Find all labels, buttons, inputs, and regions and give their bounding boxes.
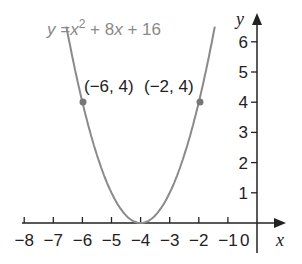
origin-label: 0 bbox=[240, 231, 249, 250]
svg-text:2: 2 bbox=[239, 154, 248, 173]
annotation-minus6-4: (−6, 4) bbox=[84, 77, 134, 96]
svg-text:−6: −6 bbox=[73, 231, 92, 250]
x-ticks: −8−7−6−5−4−3−2−1 bbox=[15, 217, 238, 250]
svg-text:−2: −2 bbox=[189, 231, 208, 250]
y-axis-arrow-icon bbox=[252, 13, 262, 25]
parabola-chart: −8−7−6−5−4−3−2−1 123456 x y 0 (−6, 4) (−… bbox=[0, 0, 302, 264]
svg-text:1: 1 bbox=[239, 184, 248, 203]
x-axis-label: x bbox=[275, 230, 284, 250]
svg-text:−3: −3 bbox=[160, 231, 179, 250]
y-ticks: 123456 bbox=[239, 33, 257, 203]
svg-text:−5: −5 bbox=[102, 231, 121, 250]
y-axis-label: y bbox=[234, 9, 244, 29]
svg-text:5: 5 bbox=[239, 63, 248, 82]
point-minus2-4 bbox=[197, 99, 204, 106]
svg-text:−8: −8 bbox=[15, 231, 34, 250]
svg-text:3: 3 bbox=[239, 123, 248, 142]
svg-text:−1: −1 bbox=[218, 231, 237, 250]
svg-text:−7: −7 bbox=[44, 231, 63, 250]
point-minus6-4 bbox=[80, 99, 87, 106]
parabola-curve bbox=[66, 27, 214, 223]
equation-label: y =x2 + 8x + 16 bbox=[46, 17, 161, 39]
annotation-minus2-4: (−2, 4) bbox=[144, 77, 194, 96]
svg-text:6: 6 bbox=[239, 33, 248, 52]
svg-text:−4: −4 bbox=[131, 231, 150, 250]
x-axis-arrow-icon bbox=[274, 218, 286, 228]
svg-text:4: 4 bbox=[239, 93, 248, 112]
